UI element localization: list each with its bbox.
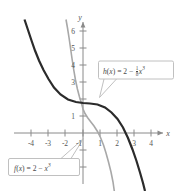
- x-tick-label-neg4: -4: [28, 139, 34, 148]
- f-eq-equals: = 2 −: [25, 164, 45, 173]
- f-function-equation: f(x) = 2 − x3: [14, 163, 51, 172]
- h-function-equation: h(x) = 2 − 18x3: [103, 66, 145, 78]
- x-tick-label-4: 4: [149, 139, 153, 148]
- x-tick-label-3: 3: [132, 139, 136, 148]
- x-tick-labels: -4 -3 -2 -1 1 2 3 4: [28, 139, 153, 148]
- x-tick-label-2: 2: [115, 139, 119, 148]
- y-tick-label-3: 3: [71, 78, 75, 87]
- x-axis: [14, 131, 163, 136]
- h-eq-exponent: 3: [142, 65, 145, 71]
- x-tick-label-neg2: -2: [62, 139, 68, 148]
- y-tick-label-6: 6: [71, 27, 75, 36]
- h-eq-frac-denominator: 8: [136, 71, 139, 77]
- y-axis-name-label: y: [77, 13, 82, 22]
- x-tick-label-neg3: -3: [45, 139, 51, 148]
- x-tick-label-1: 1: [98, 139, 102, 148]
- y-tick-label-1: 1: [71, 112, 75, 121]
- cubic-function-graph-figure: -4 -3 -2 -1 1 2 3 4 6 5 4 3 1 x y h(x) =…: [0, 0, 179, 191]
- y-tick-label-4: 4: [71, 61, 75, 70]
- y-tick-label-5: 5: [71, 44, 75, 53]
- x-axis-name-label: x: [165, 129, 170, 138]
- f-eq-exponent: 3: [48, 162, 51, 168]
- h-eq-fraction: 18: [136, 66, 139, 78]
- x-tick-label-neg1: -1: [76, 139, 82, 148]
- h-eq-equals: = 2 −: [115, 67, 135, 76]
